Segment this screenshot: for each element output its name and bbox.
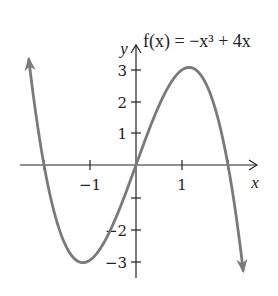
chart-title: f(x) = −x³ + 4x: [143, 31, 251, 52]
x-tick-label: −1: [79, 176, 101, 194]
y-tick-label: −3: [105, 254, 127, 272]
y-tick-label: 3: [117, 62, 127, 80]
y-tick-label: 1: [117, 125, 127, 143]
y-tick-label: 2: [117, 94, 127, 112]
x-axis-label: x: [250, 173, 259, 192]
x-axis: −1 1 x: [20, 160, 259, 194]
x-tick-label: 1: [177, 176, 187, 194]
function-graph: −1 1 x 3 2 1 −2 −3 y f(x) = −x³ + 4x: [0, 0, 278, 296]
y-axis-label: y: [118, 39, 128, 58]
y-axis: 3 2 1 −2 −3 y: [105, 39, 141, 278]
